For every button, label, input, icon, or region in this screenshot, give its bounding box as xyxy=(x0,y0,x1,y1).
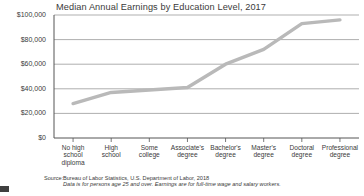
source-label: Source: xyxy=(44,175,63,181)
xtick-marks-group xyxy=(73,138,340,142)
corner-mark xyxy=(0,186,9,192)
ytick-label: $20,000 xyxy=(2,109,46,116)
plot-area xyxy=(0,0,364,196)
chart-figure: Median Annual Earnings by Education Leve… xyxy=(0,0,364,196)
ytick-label: $60,000 xyxy=(2,60,46,67)
ytick-label: $80,000 xyxy=(2,36,46,43)
source-text: Bureau of Labor Statistics, U.S. Departm… xyxy=(63,175,209,181)
xtick-label: Professional degree xyxy=(316,144,364,159)
ytick-label: $40,000 xyxy=(2,85,46,92)
source-line-two: Data is for persons age 25 and over. Ear… xyxy=(63,181,281,187)
ytick-label: $0 xyxy=(2,134,46,141)
gridlines-group xyxy=(54,15,359,113)
ytick-label: $100,000 xyxy=(2,11,46,18)
source-note: Source:Bureau of Labor Statistics, U.S. … xyxy=(44,175,281,188)
earnings-data-line xyxy=(73,20,340,104)
